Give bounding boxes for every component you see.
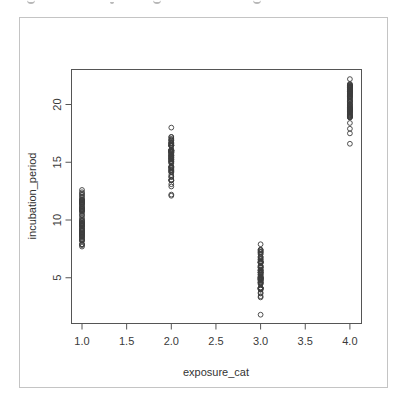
plot-area-box: [72, 70, 362, 324]
y-axis-title: incubation_period: [26, 153, 38, 240]
x-tick-label: 1.0: [74, 335, 89, 347]
scatter-plot: 1.01.52.02.53.03.54.0 5101520 exposure_c…: [0, 0, 406, 404]
y-tick-label: 10: [51, 214, 63, 226]
data-point: [348, 126, 353, 131]
x-tick-label: 2.0: [164, 335, 179, 347]
x-tick-label: 3.5: [298, 335, 313, 347]
y-tick-label: 15: [51, 156, 63, 168]
data-point: [258, 312, 263, 317]
x-tick-label: 2.5: [208, 335, 223, 347]
x-tick-label: 4.0: [342, 335, 357, 347]
data-points: [80, 77, 353, 317]
data-point: [169, 125, 174, 130]
data-point: [348, 131, 353, 136]
x-axis: 1.01.52.02.53.03.54.0: [74, 324, 357, 347]
y-tick-label: 5: [51, 275, 63, 281]
y-tick-label: 20: [51, 98, 63, 110]
data-point: [348, 121, 353, 126]
x-tick-label: 3.0: [253, 335, 268, 347]
x-axis-title: exposure_cat: [183, 366, 249, 378]
x-tick-label: 1.5: [119, 335, 134, 347]
data-point: [258, 242, 263, 247]
data-point: [348, 141, 353, 146]
y-axis: 5101520: [51, 98, 72, 280]
data-point: [348, 77, 353, 82]
